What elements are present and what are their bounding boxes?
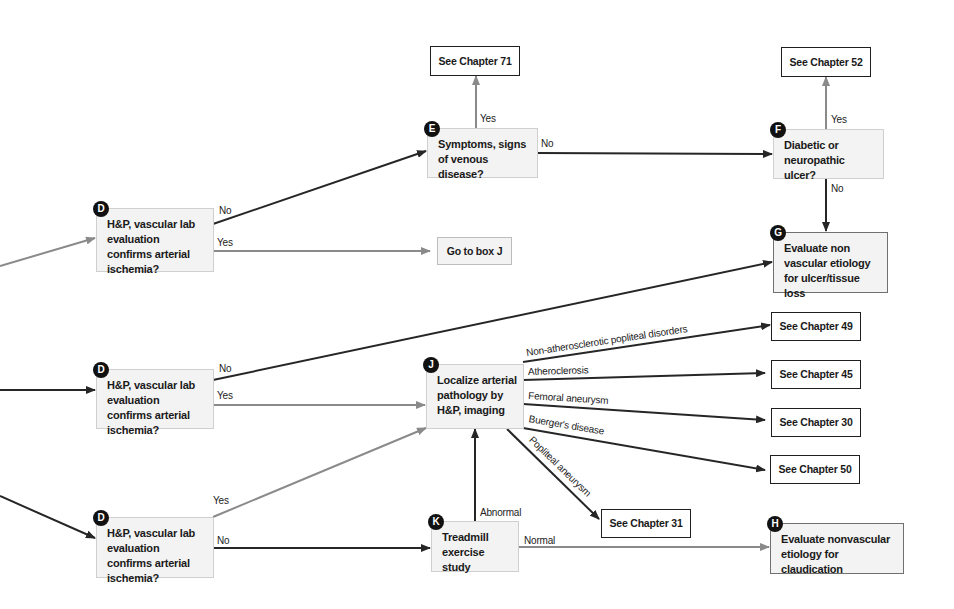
action-box-k: K Treadmill exercise study — [431, 521, 519, 572]
goto-box-j-text: Go to box J — [447, 244, 503, 259]
decision-box-e: E Symptoms, signs of venous disease? — [427, 128, 538, 178]
edge-label-d2-yes: Yes — [217, 390, 233, 401]
chapter-31-text: See Chapter 31 — [609, 516, 682, 531]
chapter-50-box: See Chapter 50 — [770, 455, 860, 484]
edge-label-k-normal: Normal — [524, 535, 555, 546]
action-box-g: G Evaluate non vascular etiology for ulc… — [773, 232, 888, 293]
decision-d3-text: H&P, vascular lab evaluation confirms ar… — [107, 527, 195, 584]
action-k-text: Treadmill exercise study — [442, 531, 489, 573]
edge-label-e-no: No — [541, 138, 553, 149]
chapter-45-text: See Chapter 45 — [779, 367, 852, 382]
edge-label-d3-yes: Yes — [213, 495, 229, 506]
edge-label-d1-no: No — [219, 205, 231, 216]
chapter-49-box: See Chapter 49 — [771, 312, 861, 341]
badge-e: E — [424, 121, 440, 137]
chapter-30-text: See Chapter 30 — [779, 415, 852, 430]
chapter-71-text: See Chapter 71 — [438, 54, 511, 69]
decision-e-text: Symptoms, signs of venous disease? — [438, 138, 526, 180]
decision-f-text: Diabetic or neuropathic ulcer? — [784, 139, 845, 181]
chapter-30-box: See Chapter 30 — [771, 408, 861, 437]
action-box-j: J Localize arterial pathology by H&P, im… — [426, 364, 524, 429]
edge-label-d2-no: No — [219, 363, 231, 374]
action-j-text: Localize arterial pathology by H&P, imag… — [437, 374, 517, 416]
action-g-text: Evaluate non vascular etiology for ulcer… — [784, 242, 870, 299]
chapter-49-text: See Chapter 49 — [779, 319, 852, 334]
chapter-71-box: See Chapter 71 — [430, 46, 520, 76]
action-h-text: Evaluate nonvascular etiology for claudi… — [781, 533, 890, 575]
decision-d2-text: H&P, vascular lab evaluation confirms ar… — [107, 379, 195, 436]
flowchart-canvas: D H&P, vascular lab evaluation confirms … — [0, 0, 954, 609]
badge-h: H — [767, 516, 783, 532]
decision-box-d3: D H&P, vascular lab evaluation confirms … — [96, 517, 214, 578]
decision-box-f: F Diabetic or neuropathic ulcer? — [773, 129, 884, 179]
badge-d3: D — [93, 510, 109, 526]
edge-label-f-no: No — [831, 183, 843, 194]
edge-label-f-yes: Yes — [831, 114, 847, 125]
badge-k: K — [428, 514, 444, 530]
chapter-45-box: See Chapter 45 — [771, 360, 861, 389]
badge-g: G — [770, 225, 786, 241]
edge-label-e-yes: Yes — [480, 113, 496, 124]
badge-j: J — [423, 357, 439, 373]
decision-box-d1: D H&P, vascular lab evaluation confirms … — [96, 208, 214, 272]
edge-label-d3-no: No — [217, 535, 229, 546]
badge-f: F — [770, 122, 786, 138]
decision-box-d2: D H&P, vascular lab evaluation confirms … — [96, 369, 214, 429]
action-box-h: H Evaluate nonvascular etiology for clau… — [770, 523, 904, 574]
chapter-31-box: See Chapter 31 — [601, 509, 691, 538]
chapter-50-text: See Chapter 50 — [778, 462, 851, 477]
edge-label-k-abnormal: Abnormal — [480, 507, 521, 518]
edge-label-j-atherosclerosis: Atheroclerosis — [528, 364, 589, 377]
chapter-52-text: See Chapter 52 — [789, 55, 862, 70]
edge-label-d1-yes: Yes — [217, 237, 233, 248]
badge-d2: D — [93, 362, 109, 378]
decision-d1-text: H&P, vascular lab evaluation confirms ar… — [107, 218, 195, 275]
badge-d1: D — [93, 201, 109, 217]
goto-box-j: Go to box J — [437, 237, 512, 265]
chapter-52-box: See Chapter 52 — [781, 47, 871, 77]
